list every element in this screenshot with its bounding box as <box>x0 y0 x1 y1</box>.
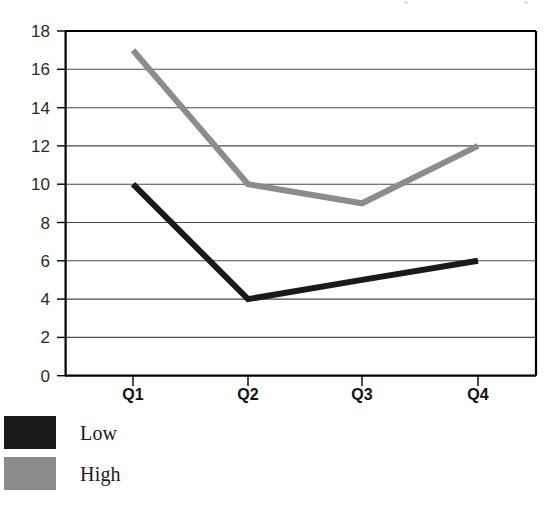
x-tick-labels: Q1 Q2 Q3 Q4 <box>122 386 488 403</box>
legend-label-low: Low <box>80 423 117 443</box>
y-tick-label: 6 <box>41 252 50 271</box>
gridlines <box>65 69 536 337</box>
plot-frame <box>65 31 536 376</box>
header-artifact-left: • <box>404 0 408 8</box>
y-tick-label: 4 <box>41 290 50 309</box>
y-tick-label: 14 <box>31 99 50 118</box>
legend-item-high: High <box>4 453 304 494</box>
chart-legend: Low High <box>4 412 304 494</box>
legend-item-low: Low <box>4 412 304 453</box>
series-line-high <box>133 50 478 203</box>
x-tick-label-q4: Q4 <box>467 386 488 403</box>
legend-swatch-high <box>4 457 56 490</box>
clipped-header-artifact: • • <box>404 0 528 8</box>
x-tick-marks <box>133 376 478 386</box>
legend-label-high: High <box>80 464 121 484</box>
y-tick-label: 0 <box>41 367 50 386</box>
line-chart: • • <box>0 0 557 524</box>
y-tick-label: 8 <box>41 214 50 233</box>
y-tick-label: 12 <box>31 137 50 156</box>
x-tick-label-q1: Q1 <box>122 386 143 403</box>
y-tick-label: 2 <box>41 328 50 347</box>
y-tick-labels: 18 16 14 12 10 8 6 4 2 0 <box>31 22 50 386</box>
header-artifact-right: • <box>524 0 528 8</box>
x-tick-label-q2: Q2 <box>237 386 258 403</box>
series-line-low <box>133 184 478 299</box>
data-series-group <box>133 50 478 299</box>
y-tick-label: 10 <box>31 175 50 194</box>
y-tick-label: 16 <box>31 60 50 79</box>
x-tick-label-q3: Q3 <box>351 386 372 403</box>
legend-swatch-low <box>4 416 56 449</box>
y-tick-label: 18 <box>31 22 50 41</box>
